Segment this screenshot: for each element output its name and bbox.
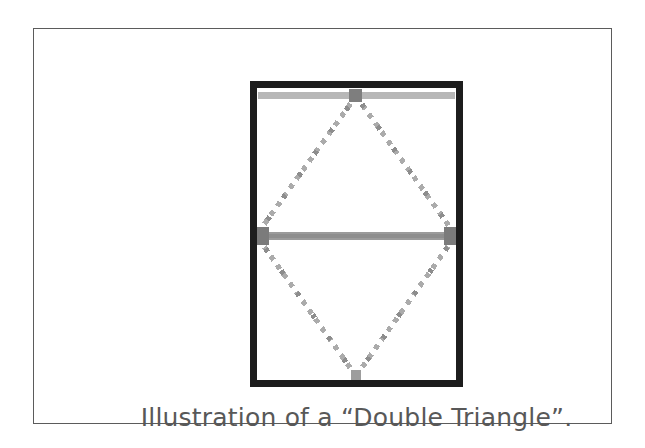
figure-page: Illustration of a “Double Triangle”. [0,0,645,448]
diagram-panel [250,81,463,387]
bottom-apex-marker [351,370,361,380]
figure-outer-frame: Illustration of a “Double Triangle”. [33,28,612,424]
double-triangle-svg [250,81,463,387]
figure-caption: Illustration of a “Double Triangle”. [67,401,645,435]
top-apex-marker [349,89,362,102]
